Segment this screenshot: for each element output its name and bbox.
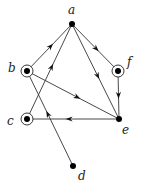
node-label-b: b xyxy=(8,61,16,75)
edge-c-a xyxy=(27,24,72,119)
node-label-a: a xyxy=(68,3,75,17)
node-b xyxy=(24,68,30,74)
nodes: abfced xyxy=(7,3,134,183)
edge-b-a xyxy=(27,24,72,71)
node-e xyxy=(116,116,122,122)
node-f xyxy=(115,68,121,74)
node-d xyxy=(70,163,76,169)
node-label-e: e xyxy=(122,123,129,137)
edge-b-e xyxy=(27,71,119,119)
directed-graph: abfced xyxy=(0,0,142,189)
edges xyxy=(27,24,121,166)
node-a xyxy=(69,21,75,27)
node-label-f: f xyxy=(126,55,134,69)
arrowhead-icon xyxy=(73,93,80,99)
node-label-c: c xyxy=(7,114,14,128)
edge-d-b xyxy=(27,71,73,166)
node-c xyxy=(24,116,30,122)
edge-a-f xyxy=(72,24,118,71)
node-label-d: d xyxy=(78,169,86,183)
